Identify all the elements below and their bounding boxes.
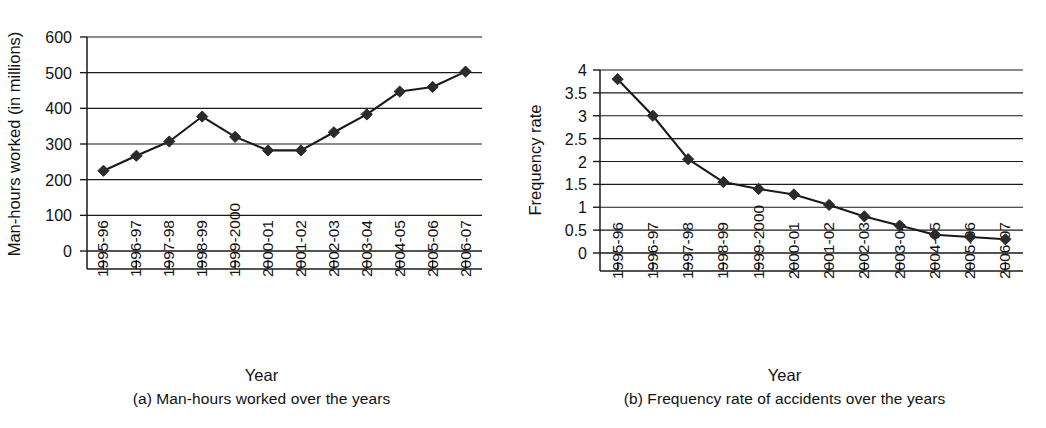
x-tick-label-10: 2005-06 (424, 220, 441, 277)
data-point-marker-4 (230, 131, 241, 142)
data-point-marker-0 (98, 165, 109, 176)
x-tick-label-10: 2005-06 (961, 222, 978, 279)
x-tick-label-2: 1997-98 (160, 220, 177, 277)
frequency-rate-line-chart: 00.511.522.533.541995-961996-971997-9819… (523, 0, 1046, 400)
x-tick-label-0: 1995-96 (609, 222, 626, 279)
data-series-line (103, 72, 465, 171)
y-tick-label-8: 4 (578, 62, 587, 79)
x-tick-label-4: 1999-2000 (226, 202, 243, 277)
x-tick-label-7: 2002-03 (325, 220, 342, 277)
y-axis-title: Frequency rate (526, 105, 544, 216)
y-tick-label-2: 1 (578, 199, 587, 216)
x-axis-title-a: Year (0, 366, 523, 385)
data-point-marker-1 (131, 150, 142, 161)
y-tick-label-6: 3 (578, 108, 587, 125)
y-tick-label-1: 100 (45, 207, 72, 224)
chart-panel-a: 01002003004005006001995-961996-971997-98… (0, 0, 523, 428)
data-point-marker-10 (427, 81, 438, 92)
x-tick-label-3: 1998-99 (193, 220, 210, 277)
y-tick-label-1: 0.5 (565, 222, 587, 239)
x-tick-label-8: 2003-04 (358, 220, 375, 277)
x-tick-label-2: 1997-98 (679, 222, 696, 279)
x-tick-label-1: 1996-97 (644, 222, 661, 279)
y-tick-label-4: 400 (45, 100, 72, 117)
y-tick-label-0: 0 (63, 243, 72, 260)
data-point-marker-7 (859, 211, 870, 222)
y-tick-label-5: 500 (45, 65, 72, 82)
y-tick-label-0: 0 (578, 245, 587, 262)
x-tick-label-11: 2006-07 (996, 222, 1013, 279)
y-tick-label-7: 3.5 (565, 85, 587, 102)
data-point-marker-5 (788, 189, 799, 200)
y-tick-label-4: 2 (578, 154, 587, 171)
x-tick-label-11: 2006-07 (457, 220, 474, 277)
x-tick-label-3: 1998-99 (714, 222, 731, 279)
panel-caption-b: (b) Frequency rate of accidents over the… (523, 390, 1046, 408)
x-tick-label-6: 2001-02 (292, 220, 309, 277)
x-tick-label-4: 1999-2000 (750, 204, 767, 279)
data-point-marker-6 (295, 145, 306, 156)
data-point-marker-7 (328, 127, 339, 138)
man-hours-line-chart: 01002003004005006001995-961996-971997-98… (0, 0, 523, 400)
data-point-marker-3 (718, 176, 729, 187)
data-point-marker-11 (460, 66, 471, 77)
x-axis-title-b: Year (523, 366, 1046, 385)
y-tick-label-3: 1.5 (565, 176, 587, 193)
x-tick-label-7: 2002-03 (855, 222, 872, 279)
y-tick-label-5: 2.5 (565, 131, 587, 148)
chart-panel-b: 00.511.522.533.541995-961996-971997-9819… (523, 0, 1046, 428)
y-tick-label-2: 200 (45, 172, 72, 189)
y-axis-title: Man-hours worked (in millions) (5, 32, 23, 257)
data-series-line (618, 79, 1006, 239)
x-tick-label-0: 1995-96 (94, 220, 111, 277)
y-tick-label-6: 600 (45, 29, 72, 46)
x-tick-label-1: 1996-97 (127, 220, 144, 277)
data-point-marker-4 (753, 183, 764, 194)
x-tick-label-5: 2000-01 (259, 220, 276, 277)
panel-caption-a: (a) Man-hours worked over the years (0, 390, 523, 408)
x-tick-label-9: 2004-05 (391, 220, 408, 277)
y-tick-label-3: 300 (45, 136, 72, 153)
data-point-marker-6 (824, 199, 835, 210)
x-tick-label-5: 2000-01 (785, 222, 802, 279)
x-tick-label-6: 2001-02 (820, 222, 837, 279)
data-point-marker-5 (262, 145, 273, 156)
figure-container: 01002003004005006001995-961996-971997-98… (0, 0, 1046, 428)
